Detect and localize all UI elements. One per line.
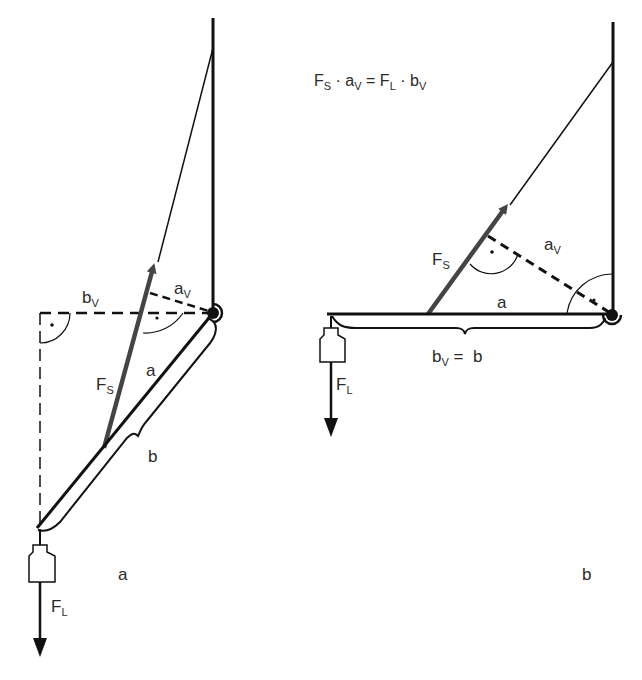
rope-a (158, 48, 213, 262)
label-fs-b: FS (432, 250, 450, 271)
caption-b: b (582, 565, 591, 584)
formula: FS · aV = FL · bV (314, 72, 427, 92)
force-fl-arrowhead-a (33, 638, 47, 657)
label-b-a: b (148, 447, 157, 466)
right-angle-arc-a-left (40, 313, 70, 343)
label-av-a: aV (174, 279, 191, 300)
label-fl-b: FL (336, 375, 353, 396)
label-a-b: a (497, 293, 507, 312)
label-a-a: a (146, 361, 156, 380)
weight-a (29, 545, 55, 582)
right-angle-arc-b (470, 254, 518, 274)
pivot-b (606, 309, 618, 321)
brace-b (332, 316, 605, 334)
weight-b (320, 328, 345, 362)
label-av-b: aV (544, 235, 561, 256)
right-angle-dot-b (490, 250, 494, 254)
rope-b (510, 62, 613, 205)
angle-arc-pivot-b (567, 274, 612, 313)
brace-a (38, 318, 216, 531)
label-fs-a: FS (96, 375, 114, 396)
panel-a: bV aV FS a b FL a (29, 18, 222, 657)
pivot-a (207, 307, 219, 319)
label-fl-a: FL (51, 597, 68, 618)
right-angle-dot-a-left (50, 323, 54, 327)
angle-arc-a (143, 313, 183, 333)
caption-a: a (118, 565, 128, 584)
label-bv-eq-b: bV = b (432, 347, 482, 368)
panel-b: FS aV a bV = b FL b (320, 22, 621, 584)
right-angle-dot-a (155, 316, 158, 319)
lever-rod-a (37, 313, 213, 528)
label-bv-a: bV (82, 288, 99, 309)
right-angle-dot-pivot-b (592, 298, 595, 301)
lever-diagram: bV aV FS a b FL a FS · aV = FL · bV (0, 0, 642, 680)
force-fl-arrowhead-b (324, 418, 338, 437)
